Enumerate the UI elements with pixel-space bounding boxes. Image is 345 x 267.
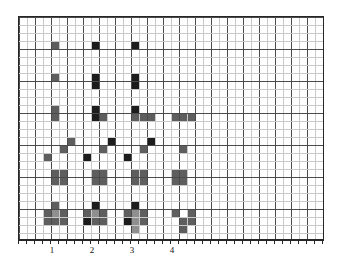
heatmap-cell (92, 42, 99, 49)
heatmap-cell (52, 210, 59, 217)
heatmap-cell (52, 42, 59, 49)
heatmap-cell (100, 170, 107, 177)
heatmap-cell (180, 114, 187, 121)
heatmap-cell (140, 170, 147, 177)
heatmap-cell (172, 170, 179, 177)
heatmap-cell (132, 202, 139, 209)
heatmap-cell (60, 170, 67, 177)
heatmap-cell (132, 218, 139, 225)
heatmap-cell (140, 218, 147, 225)
heatmap-cell (180, 170, 187, 177)
heatmap-cells (19, 17, 323, 239)
heatmap-cell (92, 178, 99, 185)
heatmap-cell (132, 114, 139, 121)
heatmap-cell (124, 210, 131, 217)
heatmap-cell (44, 210, 51, 217)
heatmap-cell (132, 74, 139, 81)
heatmap-cell (132, 210, 139, 217)
heatmap-cell (132, 170, 139, 177)
heatmap-cell (100, 114, 107, 121)
heatmap-cell (188, 210, 195, 217)
heatmap-cell (140, 178, 147, 185)
heatmap-cell (100, 146, 107, 153)
figure-canvas: 1234 · (0, 0, 345, 267)
heatmap-cell (52, 106, 59, 113)
heatmap-cell (44, 218, 51, 225)
heatmap-cell (52, 170, 59, 177)
x-tick-label-2: 2 (84, 245, 100, 255)
heatmap-cell (60, 178, 67, 185)
heatmap-cell (148, 138, 155, 145)
heatmap-cell (92, 170, 99, 177)
x-tick-label-3: 3 (124, 245, 140, 255)
heatmap-cell (132, 106, 139, 113)
heatmap-cell (92, 82, 99, 89)
heatmap-cell (188, 114, 195, 121)
heatmap-cell (172, 210, 179, 217)
heatmap-cell (92, 106, 99, 113)
heatmap-cell (92, 114, 99, 121)
heatmap-cell (52, 218, 59, 225)
heatmap-cell (180, 146, 187, 153)
heatmap-cell (180, 218, 187, 225)
heatmap-cell (100, 218, 107, 225)
heatmap-cell (180, 226, 187, 233)
heatmap-cell (44, 154, 51, 161)
stray-dot-mark: · (208, 63, 210, 70)
heatmap-cell (92, 202, 99, 209)
heatmap-cell (92, 218, 99, 225)
heatmap-cell (52, 202, 59, 209)
heatmap-cell (100, 178, 107, 185)
heatmap-cell (180, 178, 187, 185)
heatmap-cell (132, 178, 139, 185)
heatmap-cell (84, 210, 91, 217)
heatmap-cell (68, 138, 75, 145)
heatmap-cell (92, 210, 99, 217)
heatmap-cell (124, 154, 131, 161)
heatmap-cell (132, 226, 139, 233)
heatmap-cell (140, 146, 147, 153)
heatmap-cell (172, 178, 179, 185)
heatmap-cell (140, 210, 147, 217)
heatmap-cell (148, 114, 155, 121)
heatmap-cell (100, 210, 107, 217)
heatmap-cell (172, 114, 179, 121)
heatmap-cell (52, 178, 59, 185)
heatmap-cell (132, 82, 139, 89)
heatmap-cell (84, 154, 91, 161)
heatmap-cell (60, 146, 67, 153)
x-tick-label-1: 1 (44, 245, 60, 255)
heatmap-cell (108, 138, 115, 145)
x-tick-label-4: 4 (164, 245, 180, 255)
heatmap-cell (84, 218, 91, 225)
heatmap-cell (188, 218, 195, 225)
heatmap-cell (60, 218, 67, 225)
heatmap-cell (60, 210, 67, 217)
heatmap-cell (92, 74, 99, 81)
heatmap-cell (52, 74, 59, 81)
plot-area (18, 16, 324, 240)
heatmap-cell (140, 114, 147, 121)
heatmap-cell (132, 42, 139, 49)
heatmap-cell (52, 114, 59, 121)
heatmap-cell (124, 218, 131, 225)
